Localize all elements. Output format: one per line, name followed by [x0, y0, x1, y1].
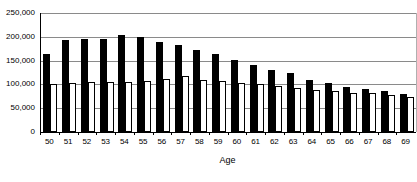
x-axis-tick-cell [228, 132, 247, 136]
bar-white-series-62 [275, 86, 282, 132]
bar-white-series-69 [407, 97, 414, 132]
x-axis-tick-label: 53 [96, 137, 115, 149]
x-axis-tick-label: 63 [284, 137, 303, 149]
x-axis-tick-mark [171, 132, 172, 135]
bars-layer [41, 13, 416, 132]
x-axis-tick-label: 55 [134, 137, 153, 149]
x-axis-tick-cell [265, 132, 284, 136]
x-axis-tick-labels: 5051525354555657585960616263646566676869 [40, 137, 415, 149]
bar-group [322, 13, 341, 132]
bar-black-series-68 [381, 91, 388, 132]
x-axis-tick-mark [40, 132, 41, 135]
bar-white-series-58 [200, 80, 207, 132]
x-axis-tick-mark [134, 132, 135, 135]
bar-black-series-61 [250, 65, 257, 132]
x-axis-tick-cell [96, 132, 115, 136]
bar-group [210, 13, 229, 132]
bar-black-series-51 [62, 40, 69, 132]
x-axis-tick-cell [359, 132, 378, 136]
x-axis-tick-mark [153, 132, 154, 135]
y-axis-tick-label: 250,000 [6, 9, 35, 17]
x-axis-tick-mark [115, 132, 116, 135]
x-axis-tick-label: 65 [321, 137, 340, 149]
x-axis-tick-marks [40, 132, 415, 136]
x-axis-tick-cell [246, 132, 265, 136]
bar-group [60, 13, 79, 132]
bar-white-series-67 [369, 93, 376, 132]
x-axis-title: Age [40, 155, 415, 165]
x-axis-tick-label: 62 [265, 137, 284, 149]
bar-chart: 050,000100,000150,000200,000250,000 5051… [0, 0, 417, 182]
x-axis-tick-cell [396, 132, 415, 136]
y-axis-tick-label: 50,000 [11, 104, 35, 112]
bar-group [229, 13, 248, 132]
x-axis-tick-label: 52 [78, 137, 97, 149]
x-axis-tick-label: 57 [171, 137, 190, 149]
x-axis-tick-label: 64 [303, 137, 322, 149]
y-axis-tick-label: 0 [31, 128, 35, 136]
bar-white-series-61 [257, 84, 264, 132]
x-axis-tick-cell [115, 132, 134, 136]
bar-black-series-57 [175, 45, 182, 132]
bar-group [397, 13, 416, 132]
x-axis-tick-cell [190, 132, 209, 136]
bar-white-series-53 [107, 82, 114, 132]
bar-black-series-55 [137, 37, 144, 132]
bar-group [191, 13, 210, 132]
x-axis-tick-label: 69 [396, 137, 415, 149]
bar-group [360, 13, 379, 132]
x-axis-tick-mark [340, 132, 341, 135]
x-axis-tick-label: 61 [246, 137, 265, 149]
bar-black-series-52 [81, 39, 88, 132]
x-axis-tick-label: 50 [40, 137, 59, 149]
bar-group [116, 13, 135, 132]
x-axis-tick-mark [59, 132, 60, 135]
bar-group [285, 13, 304, 132]
bar-white-series-57 [182, 76, 189, 132]
bar-black-series-62 [268, 70, 275, 132]
bar-white-series-54 [125, 82, 132, 132]
bar-group [154, 13, 173, 132]
y-axis-tick-label: 100,000 [6, 80, 35, 88]
x-axis-tick-cell [378, 132, 397, 136]
x-axis-tick-cell [340, 132, 359, 136]
x-axis-tick-mark [228, 132, 229, 135]
bar-group [79, 13, 98, 132]
x-axis-tick-mark [209, 132, 210, 135]
bar-black-series-69 [400, 94, 407, 132]
y-axis-tick-label: 150,000 [6, 57, 35, 65]
x-axis-tick-cell [209, 132, 228, 136]
bar-white-series-51 [69, 83, 76, 132]
x-axis-tick-mark [190, 132, 191, 135]
bar-group [266, 13, 285, 132]
x-axis-tick-mark [96, 132, 97, 135]
y-axis-tick-label: 200,000 [6, 33, 35, 41]
bar-white-series-52 [88, 82, 95, 132]
y-axis-tick-labels: 050,000100,000150,000200,000250,000 [0, 0, 38, 182]
bar-group [97, 13, 116, 132]
x-axis-tick-mark [265, 132, 266, 135]
x-axis-tick-cell [284, 132, 303, 136]
x-axis-tick-cell [321, 132, 340, 136]
bar-white-series-65 [332, 91, 339, 132]
bar-black-series-63 [287, 73, 294, 132]
x-axis-tick-cell [134, 132, 153, 136]
bar-black-series-56 [156, 42, 163, 132]
bar-group [41, 13, 60, 132]
bar-group [247, 13, 266, 132]
x-axis-tick-cell [59, 132, 78, 136]
x-axis-tick-mark [396, 132, 397, 135]
bar-black-series-58 [193, 50, 200, 132]
x-axis-tick-label: 51 [59, 137, 78, 149]
bar-white-series-59 [219, 81, 226, 132]
x-axis-tick-cell [153, 132, 172, 136]
bar-black-series-50 [43, 54, 50, 132]
bar-black-series-66 [343, 87, 350, 132]
x-axis-tick-cell [40, 132, 59, 136]
x-axis-tick-label: 54 [115, 137, 134, 149]
bar-white-series-50 [50, 84, 57, 132]
x-axis-tick-cell [303, 132, 322, 136]
x-axis-tick-mark [246, 132, 247, 135]
bar-black-series-60 [231, 60, 238, 132]
bar-white-series-55 [144, 81, 151, 132]
